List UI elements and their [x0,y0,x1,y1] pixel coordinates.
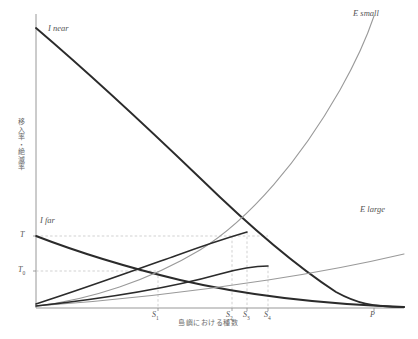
curve-label-i-far: I far [40,216,55,225]
y-tick-label-T: T [20,231,24,241]
curve-i-near [36,28,404,307]
island-biogeography-figure: I near I far E small E large T T0 S1 S2 … [0,0,418,339]
x-tick-label-S3: S3 [243,311,250,321]
x-tick-label-S4: S4 [264,311,271,321]
curve-label-i-near: I near [48,24,69,33]
curve-label-e-small: E small [353,9,379,18]
plot-canvas [0,0,418,339]
y-tick-label-T0: T0 [18,266,25,276]
x-tick-label-P: P [370,311,375,321]
curve-e-small [36,16,374,306]
x-tick-label-S1: S1 [152,311,159,321]
curve-label-e-large: E large [360,205,385,214]
x-axis-title: 島嶼における種数 [178,320,238,327]
y-axis-title: 移入率・絶滅率 [12,118,24,171]
